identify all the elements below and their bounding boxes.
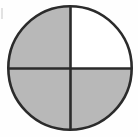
quadrant-group xyxy=(0,0,138,137)
fraction-circle-svg xyxy=(0,0,138,137)
fraction-circle-figure xyxy=(0,0,138,137)
scan-speck-artifact xyxy=(1,8,3,19)
